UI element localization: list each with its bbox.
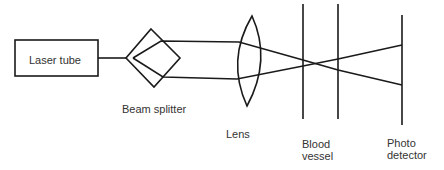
beam-splitter-label: Beam splitter xyxy=(122,103,186,115)
laser-tube-label: Laser tube xyxy=(29,54,81,66)
diagram-canvas xyxy=(0,0,444,170)
photo-detector-label: Photo detector xyxy=(387,137,427,161)
photo-detector-label-line1: Photo xyxy=(387,137,427,149)
lens-label: Lens xyxy=(226,128,250,140)
upper-beam xyxy=(133,41,402,85)
laser-doppler-diagram: Laser tube Beam splitter Lens Blood vess… xyxy=(0,0,444,170)
lens-shape xyxy=(238,16,261,106)
blood-vessel-label-line2: vessel xyxy=(302,150,333,162)
blood-vessel-label: Blood vessel xyxy=(302,138,333,162)
photo-detector-label-line2: detector xyxy=(387,149,427,161)
blood-vessel-label-line1: Blood xyxy=(302,138,333,150)
